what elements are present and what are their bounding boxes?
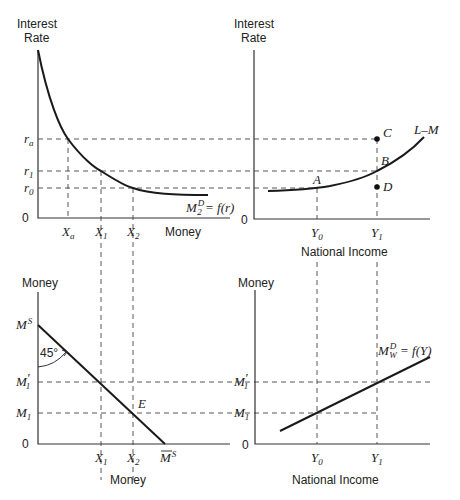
bl-x-label: Money [110, 473, 146, 487]
point-c-marker [374, 136, 380, 142]
point-d-marker [374, 184, 380, 190]
point-a-label: A [312, 172, 321, 187]
money-supply-line [38, 325, 165, 444]
panel-money-demand-income: Money 0 MDW = f(Y) M′1 M1 Y0 Y1 National… [233, 276, 432, 487]
tick-y1-top: Y1 [371, 225, 383, 242]
point-e-label: E [137, 396, 146, 411]
br-origin: 0 [242, 438, 249, 452]
tick-m1-right: M1 [233, 405, 249, 422]
bl-y-label: Money [22, 276, 58, 290]
tr-axes [254, 50, 430, 219]
tick-x1: X1 [94, 224, 107, 241]
tl-origin: 0 [22, 211, 29, 225]
lm-label: L–M [413, 122, 440, 137]
tick-y1-bottom: Y1 [371, 450, 383, 467]
tl-x-label: Money [165, 225, 201, 239]
point-c-label: C [383, 125, 392, 140]
br-y-label: Money [238, 276, 274, 290]
money-demand-label: MD2 = f(r) [185, 198, 234, 217]
tr-y-label-1: Interest [234, 17, 275, 31]
tick-r0: r0 [24, 180, 34, 197]
tick-m1prime-left: M′1 [15, 370, 30, 391]
tick-m1-left: M1 [15, 405, 31, 422]
money-demand-curve [38, 50, 208, 195]
tl-axes [38, 50, 230, 218]
tick-ra: ra [24, 131, 34, 148]
tick-x1-bottom: X1 [94, 450, 107, 467]
br-axes [255, 290, 430, 444]
tick-x2: X2 [126, 224, 140, 241]
tr-origin: 0 [241, 213, 248, 227]
br-x-label: National Income [292, 473, 379, 487]
tr-x-label: National Income [301, 245, 388, 259]
tick-x2-bottom: X2 [126, 450, 140, 467]
tl-y-label-1: Interest [17, 17, 58, 31]
transactions-demand-line [280, 357, 430, 431]
bl-axes [38, 292, 230, 444]
tick-m1prime-right: M′1 [233, 370, 248, 391]
panel-lm-curve: Interest Rate 0 C B D A L–M Y0 Y1 Nation… [234, 17, 440, 444]
transactions-demand-label: MDW = f(Y) [377, 341, 432, 360]
tick-mbar-s: MS [159, 449, 177, 465]
point-d-label: D [382, 179, 393, 194]
tick-ms: MS [15, 316, 33, 332]
tr-y-label-2: Rate [241, 31, 267, 45]
bl-origin: 0 [22, 437, 29, 451]
lm-curve [268, 137, 424, 191]
panel-money-supply: Money 0 45° E MS M′1 M1 X1 X2 MS Money [15, 276, 430, 487]
tick-r1: r1 [24, 163, 34, 180]
tick-y0-top: Y0 [311, 225, 323, 242]
tick-xa: Xa [61, 224, 75, 241]
tl-y-label-2: Rate [24, 31, 50, 45]
point-b-label: B [381, 153, 389, 168]
angle-label: 45° [40, 346, 58, 360]
four-quadrant-diagram: Interest Rate 0 ra r1 r0 Xa X1 X2 Money … [0, 0, 460, 500]
tick-y0-bottom: Y0 [311, 450, 323, 467]
